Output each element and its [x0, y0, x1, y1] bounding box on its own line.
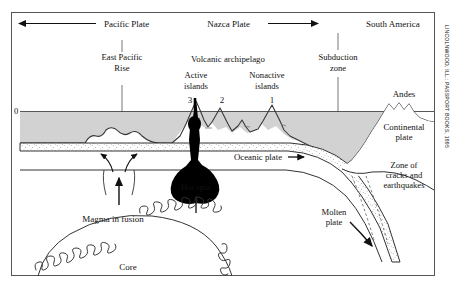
- label-active-islands-2: islands: [184, 81, 209, 91]
- label-zone-3: earthquakes: [383, 180, 425, 190]
- publisher-credit: LINCOLNWOOD, ILL.: PASSPORT BOOKS, 1995: [444, 25, 450, 148]
- label-oceanic-plate: Oceanic plate: [234, 152, 282, 162]
- label-subduction-2: zone: [330, 63, 346, 73]
- label-molten-plate-1: Molten: [322, 207, 348, 217]
- label-south-america: South America: [366, 19, 420, 29]
- label-nonactive-islands-1: Nonactive: [249, 70, 285, 80]
- island-number-3: 3: [188, 95, 193, 105]
- label-core: Core: [119, 262, 137, 272]
- label-east-pacific-rise-2: Rise: [114, 63, 129, 73]
- label-sea-level: 0: [14, 106, 18, 116]
- label-zone-1: Zone of: [391, 160, 418, 170]
- label-molten-plate-2: plate: [326, 217, 343, 227]
- island-number-1: 1: [270, 95, 275, 105]
- label-nonactive-islands-2: islands: [255, 81, 280, 91]
- label-hot-spot-text: Hot spot: [181, 182, 212, 192]
- label-pacific-plate: Pacific Plate: [104, 19, 149, 29]
- label-zone-2: cracks and: [386, 170, 423, 180]
- label-subduction-1: Subduction: [318, 52, 358, 62]
- label-continental-plate-2: plate: [395, 132, 412, 142]
- label-andes: Andes: [393, 89, 416, 99]
- label-volcanic-archipelago: Volcanic archipelago: [191, 54, 265, 64]
- label-east-pacific-rise-1: East Pacific: [102, 52, 143, 62]
- label-active-islands-1: Active: [185, 70, 208, 80]
- label-continental-plate-1: Continental: [383, 122, 425, 132]
- island-number-2: 2: [220, 95, 225, 105]
- label-nazca-plate: Nazca Plate: [207, 19, 250, 29]
